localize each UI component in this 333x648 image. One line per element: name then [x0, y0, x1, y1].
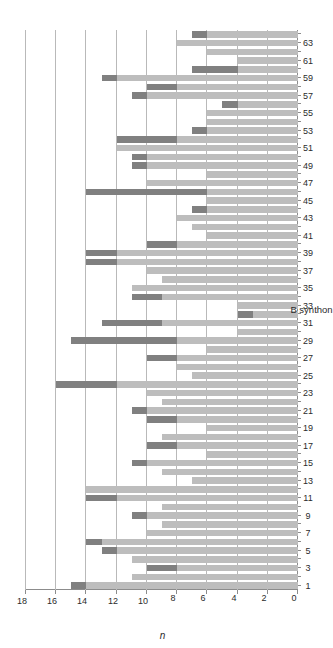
bar-segment-light	[132, 285, 298, 291]
table-row	[26, 66, 298, 72]
category-tick-mark	[298, 95, 301, 96]
table-row	[26, 329, 298, 335]
table-row	[26, 372, 298, 378]
bar-segment-dark	[132, 162, 147, 168]
category-tick-mark	[298, 200, 301, 201]
bar-segment-light	[192, 224, 298, 230]
table-row	[26, 547, 298, 553]
table-row	[26, 337, 298, 343]
table-row	[26, 110, 298, 116]
table-row	[26, 180, 298, 186]
category-tick-mark	[298, 191, 301, 192]
category-tick-mark	[298, 401, 301, 402]
bar-segment-light	[162, 434, 298, 440]
bar-segment-dark	[147, 565, 177, 571]
value-tick-mark	[25, 590, 26, 594]
category-tick-mark	[298, 270, 301, 271]
bar-segment-light	[207, 49, 298, 55]
bar-segment-dark	[86, 539, 101, 545]
table-row	[26, 84, 298, 90]
table-row	[26, 241, 298, 247]
category-tick-mark	[298, 427, 301, 428]
bar-segment-light	[177, 355, 298, 361]
table-row	[26, 539, 298, 545]
category-tick-mark	[298, 418, 301, 419]
bar-segment-dark	[132, 92, 147, 98]
category-tick-mark	[298, 296, 301, 297]
table-row	[26, 495, 298, 501]
bar-segment-light	[207, 197, 298, 203]
bar-segment-light	[162, 469, 298, 475]
table-row	[26, 49, 298, 55]
category-tick-mark	[298, 436, 301, 437]
bar-segment-light	[177, 442, 298, 448]
table-row	[26, 460, 298, 466]
table-row	[26, 442, 298, 448]
table-row	[26, 232, 298, 238]
bar-segment-light	[86, 582, 298, 588]
category-tick-mark	[298, 42, 301, 43]
category-tick-mark	[298, 173, 301, 174]
bar-segment-light	[132, 556, 298, 562]
table-row	[26, 407, 298, 413]
bar-segment-light	[147, 530, 298, 536]
category-tick-mark	[298, 121, 301, 122]
bar-segment-light	[207, 206, 298, 212]
table-row	[26, 574, 298, 580]
bar-segment-light	[192, 477, 298, 483]
bar-segment-dark	[117, 136, 177, 142]
category-tick-mark	[298, 375, 301, 376]
bar-segment-light	[147, 390, 298, 396]
bar-segment-light	[177, 215, 298, 221]
bar-segment-dark	[147, 84, 177, 90]
bar-segment-light	[147, 460, 298, 466]
category-tick-mark	[298, 243, 301, 244]
bar-segment-dark	[238, 311, 253, 317]
category-tick-mark	[298, 112, 301, 113]
table-row	[26, 302, 298, 308]
bar-segment-light	[117, 145, 298, 151]
category-tick-mark	[298, 357, 301, 358]
bar-segment-light	[207, 232, 298, 238]
category-tick-mark	[298, 366, 301, 367]
table-row	[26, 197, 298, 203]
table-row	[26, 75, 298, 81]
bar-segment-dark	[147, 355, 177, 361]
table-row	[26, 189, 298, 195]
bar-segment-dark	[132, 407, 147, 413]
category-tick-mark	[298, 130, 301, 131]
table-row	[26, 565, 298, 571]
category-tick-mark	[298, 287, 301, 288]
table-row	[26, 364, 298, 370]
bar-segment-light	[207, 171, 298, 177]
value-tick-label: 2	[259, 596, 269, 601]
category-tick-mark	[298, 331, 301, 332]
category-tick-mark	[298, 68, 301, 69]
bar-segment-light	[207, 425, 298, 431]
bar-segment-light	[147, 92, 298, 98]
category-tick-mark	[298, 208, 301, 209]
table-row	[26, 162, 298, 168]
value-tick-mark	[237, 590, 238, 594]
category-tick-mark	[298, 515, 301, 516]
value-tick-label: 0	[289, 596, 299, 601]
bar-segment-dark	[86, 250, 116, 256]
bar-segment-dark	[192, 66, 237, 72]
table-row	[26, 311, 298, 317]
category-tick-mark	[298, 322, 301, 323]
category-tick-mark	[298, 340, 301, 341]
bar-segment-light	[147, 512, 298, 518]
x-axis-label: B synthon	[306, 30, 317, 590]
value-tick-mark	[206, 590, 207, 594]
bar-segment-light	[177, 84, 298, 90]
category-tick-mark	[298, 156, 301, 157]
value-tick-mark	[267, 590, 268, 594]
category-tick-mark	[298, 488, 301, 489]
bar-segment-light	[207, 119, 298, 125]
table-row	[26, 556, 298, 562]
bar-segment-light	[207, 127, 298, 133]
y-axis-label-text: n	[159, 630, 165, 641]
bar-segment-light	[162, 504, 298, 510]
bar-segment-light	[117, 75, 298, 81]
